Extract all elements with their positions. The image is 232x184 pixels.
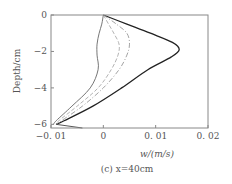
plot-area: [54, 15, 180, 128]
y-tick-label: −6: [34, 119, 48, 129]
axes-frame: [51, 15, 208, 128]
y-axis-label: Depth/cm: [12, 48, 22, 93]
x-tick-label: 0. 02: [197, 131, 220, 141]
x-tick-label: −0. 01: [36, 131, 66, 141]
series-tail: [56, 124, 82, 128]
series-dashed: [56, 15, 119, 124]
series-dash-dot: [56, 15, 129, 124]
velocity-depth-chart: −0. 0100. 010. 02 0−2−4−6 w/(m/s) Depth/…: [0, 0, 232, 184]
x-tick-label: 0. 01: [144, 131, 167, 141]
x-axis-label: w/(m/s): [140, 149, 174, 159]
x-tick-label: 0: [100, 131, 106, 141]
chart-caption: (c) x=40cm: [101, 164, 154, 174]
y-tick-label: −2: [34, 46, 47, 56]
y-tick-label: 0: [41, 10, 47, 20]
series-solid-thick: [56, 15, 179, 124]
x-axis-ticks: −0. 0100. 010. 02: [36, 125, 220, 141]
y-tick-label: −4: [34, 83, 48, 93]
series-solid-thin: [54, 15, 104, 124]
